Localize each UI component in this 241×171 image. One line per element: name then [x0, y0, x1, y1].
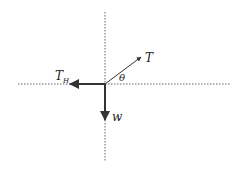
- label-TH-subscript: H: [62, 77, 70, 85]
- angle-theta-label: θ: [119, 72, 125, 83]
- label-w: w: [112, 110, 123, 124]
- label-TH: TH: [55, 69, 70, 85]
- free-body-diagram: T TH w θ: [0, 0, 241, 171]
- label-T: T: [145, 51, 154, 65]
